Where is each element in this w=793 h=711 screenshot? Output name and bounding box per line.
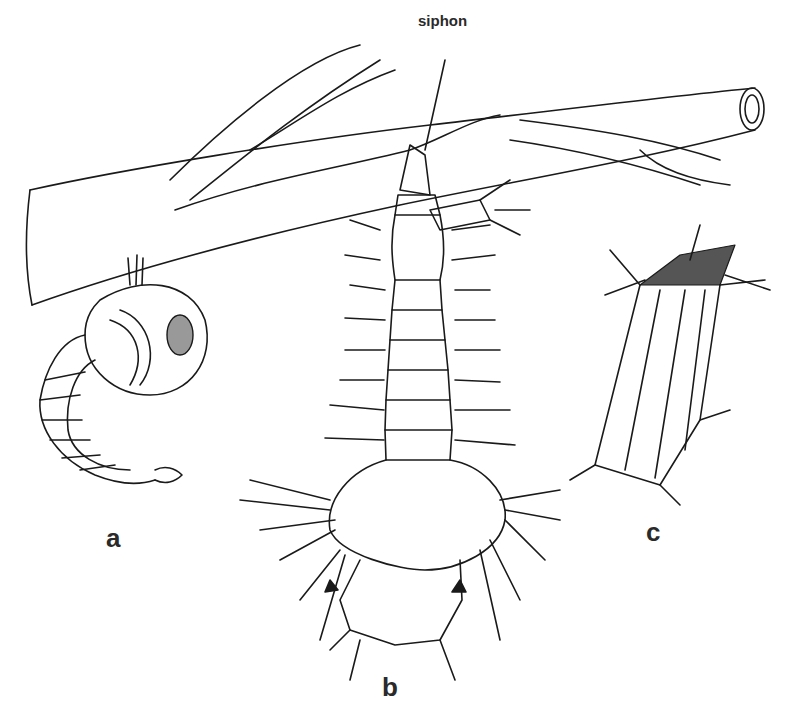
panel-label-b: b — [382, 672, 398, 703]
callout-label-siphon: siphon — [418, 12, 467, 29]
siphon-detail-drawing — [570, 225, 770, 505]
illustration-canvas — [0, 0, 793, 711]
pupa-drawing — [40, 255, 207, 483]
panel-label-a: a — [106, 523, 120, 554]
panel-label-c: c — [646, 517, 660, 548]
